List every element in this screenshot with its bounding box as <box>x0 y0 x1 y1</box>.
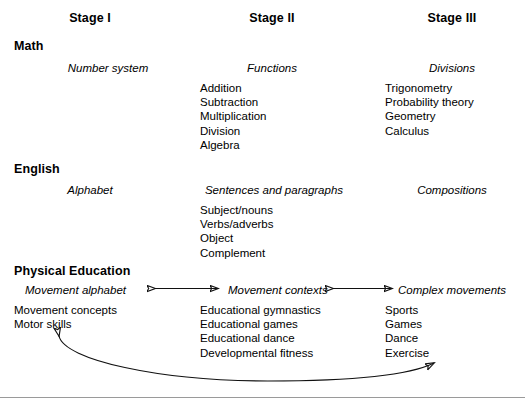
connector-arrows-layer: Stage II : straight double-headed --> St… <box>0 0 525 405</box>
arrow-stage3-stage1-feedback-icon <box>59 336 434 381</box>
bottom-divider <box>0 397 525 398</box>
diagram-canvas: Stage I Stage II Stage III Math Number s… <box>0 0 525 405</box>
